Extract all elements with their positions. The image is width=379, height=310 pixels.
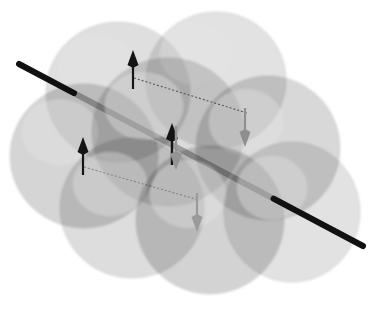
spin-lattice-figure <box>0 0 379 310</box>
sphere-highlight <box>150 160 227 228</box>
figure-root: Antiferromagnetic spin arrangement on ov… <box>0 0 379 310</box>
sphere-group-front <box>60 138 360 294</box>
atom-sphere <box>224 142 360 282</box>
